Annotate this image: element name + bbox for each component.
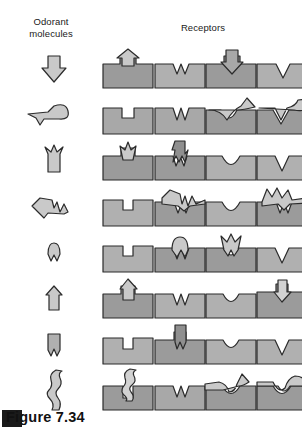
table-row [0,140,302,186]
receptor-4-row-3 [254,140,302,186]
odorant-molecules-header: Odorant molecules [12,16,90,39]
table-row [0,232,302,278]
table-row [0,186,302,232]
receptor-1-row-2 [100,94,160,140]
receptor-1-row-4 [100,186,160,232]
table-row [0,48,302,94]
odorant-molecule-7 [18,324,90,370]
receptor-4-row-6 [254,278,302,324]
odorant-molecule-1 [18,48,90,94]
receptor-4-row-4 [254,186,302,232]
receptor-4-row-1 [254,48,302,94]
table-row [0,278,302,324]
figure-caption: Figure 7.34 [6,409,85,425]
receptor-1-row-7 [100,324,160,370]
receptor-1-row-8 [100,368,160,414]
table-row [0,94,302,140]
odorant-molecule-4 [18,186,90,232]
receptor-4-row-2 [254,94,302,140]
odorant-molecule-5 [18,232,90,278]
receptor-4-row-7 [254,324,302,370]
odorant-molecule-6 [18,278,90,324]
receptor-1-row-6 [100,278,160,324]
table-row [0,324,302,370]
receptors-header: Receptors [148,22,258,34]
receptor-1-row-3 [100,140,160,186]
receptor-4-row-8 [254,368,302,414]
odorant-molecule-3 [18,140,90,186]
receptor-1-row-1 [100,48,160,94]
figure-container: Odorant molecules Receptors [0,0,302,435]
odorant-molecule-8 [18,368,90,414]
odorant-molecule-2 [18,94,90,140]
receptor-4-row-5 [254,232,302,278]
receptor-1-row-5 [100,232,160,278]
table-row [0,368,302,414]
